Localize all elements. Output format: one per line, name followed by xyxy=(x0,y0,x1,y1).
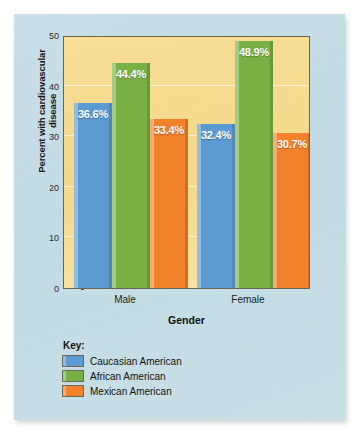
legend-item-caucasian-american: Caucasian American xyxy=(62,355,282,367)
bar-chart: Percent with cardiovascular disease 0102… xyxy=(14,14,345,420)
x-tick-label-female: Female xyxy=(213,294,283,305)
legend-label-caucasian-american: Caucasian American xyxy=(90,356,182,367)
bar-value-label: 32.4% xyxy=(197,129,235,141)
chart-legend: Key: Caucasian American African American… xyxy=(62,340,282,400)
figure-panel: Percent with cardiovascular disease 0102… xyxy=(14,14,345,420)
bar-female-mexican-american: 30.7% xyxy=(273,133,310,288)
bar-value-label: 36.6% xyxy=(74,108,112,120)
legend-label-mexican-american: Mexican American xyxy=(90,386,172,397)
y-tick-30: 30 xyxy=(37,132,59,142)
legend-swatch-caucasian-american xyxy=(62,355,84,367)
bar-female-caucasian-american: 32.4% xyxy=(197,124,235,288)
x-axis-label: Gender xyxy=(63,314,310,326)
bar-value-label: 48.9% xyxy=(235,46,273,58)
legend-item-african-american: African American xyxy=(62,370,282,382)
y-tick-20: 20 xyxy=(37,183,59,193)
y-tick-10: 10 xyxy=(37,233,59,243)
bar-value-label: 30.7% xyxy=(273,138,310,150)
bar-male-african-american: 44.4% xyxy=(112,63,150,288)
legend-item-mexican-american: Mexican American xyxy=(62,385,282,397)
legend-swatch-mexican-american xyxy=(62,385,84,397)
x-tick-label-male: Male xyxy=(90,294,160,305)
bar-male-mexican-american: 33.4% xyxy=(150,119,188,288)
bar-male-caucasian-american: 36.6% xyxy=(74,103,112,288)
y-tick-40: 40 xyxy=(37,82,59,92)
bar-value-label: 44.4% xyxy=(112,68,150,80)
y-tick-50: 50 xyxy=(37,31,59,41)
legend-title: Key: xyxy=(62,340,282,351)
legend-label-african-american: African American xyxy=(90,371,166,382)
bar-value-label: 33.4% xyxy=(150,124,188,136)
legend-swatch-african-american xyxy=(62,370,84,382)
bar-female-african-american: 48.9% xyxy=(235,41,273,288)
plot-area: 36.6%44.4%33.4%32.4%48.9%30.7% xyxy=(63,36,310,289)
y-tick-mark xyxy=(81,289,84,290)
y-tick-0: 0 xyxy=(37,284,59,294)
y-axis-ticks: 01020304050 xyxy=(34,36,59,289)
